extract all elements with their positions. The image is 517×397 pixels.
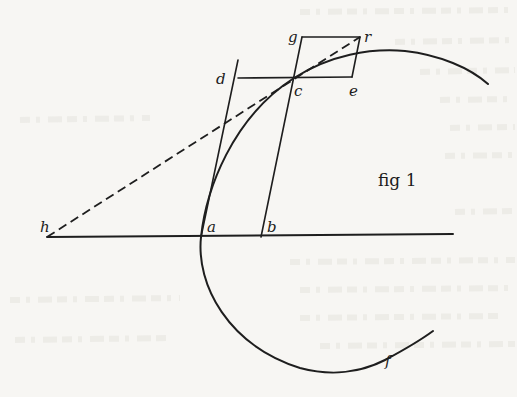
label-r: r	[364, 28, 372, 46]
geometry-figure: h a b c d e g r f fig 1	[0, 0, 517, 397]
label-d: d	[216, 70, 226, 88]
label-c: c	[294, 82, 303, 100]
label-a: a	[207, 218, 216, 236]
label-e: e	[349, 82, 358, 100]
line-r-e	[352, 37, 360, 77]
lower-arc	[200, 237, 433, 372]
line-b-g	[261, 37, 302, 237]
label-g: g	[288, 28, 298, 46]
label-b: b	[267, 218, 277, 236]
baseline	[47, 234, 453, 237]
figure-caption: fig 1	[378, 170, 416, 190]
label-f: f	[384, 352, 393, 370]
label-h: h	[40, 218, 50, 236]
